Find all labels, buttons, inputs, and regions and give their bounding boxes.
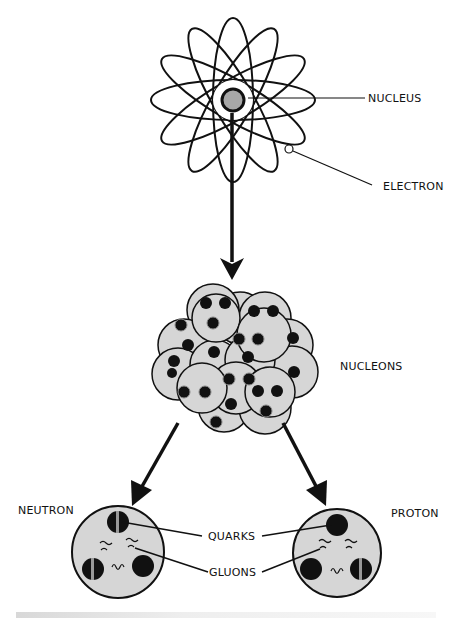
label-gluons: GLUONS xyxy=(209,566,256,579)
label-electron: ELECTRON xyxy=(383,180,444,193)
figure-caption-faded xyxy=(16,612,436,618)
label-proton: PROTON xyxy=(391,507,439,520)
label-neutron: NEUTRON xyxy=(18,504,74,517)
label-nucleus: NUCLEUS xyxy=(368,92,421,105)
proton xyxy=(293,509,381,597)
neutron xyxy=(72,506,164,598)
label-quarks: QUARKS xyxy=(208,530,255,543)
electron-dot xyxy=(285,145,293,153)
nucleus-core xyxy=(222,89,244,111)
label-nucleons: NUCLEONS xyxy=(340,360,403,373)
